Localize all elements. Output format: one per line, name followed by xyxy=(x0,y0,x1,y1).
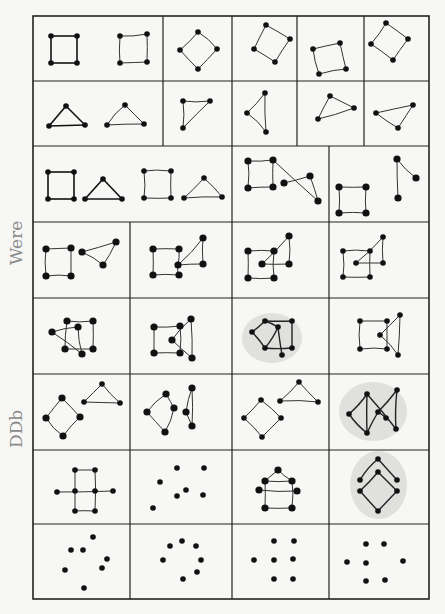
node-dot xyxy=(296,379,302,385)
node-dot xyxy=(384,318,390,324)
edge-line xyxy=(202,238,203,264)
node-dot xyxy=(375,409,381,415)
node-dot xyxy=(258,260,265,267)
edge-line xyxy=(248,278,274,279)
node-dot xyxy=(63,103,69,109)
edge-line xyxy=(247,93,265,113)
node-dot xyxy=(315,116,321,122)
edge-line xyxy=(178,264,203,265)
node-dot xyxy=(74,323,81,330)
edge-line xyxy=(397,159,416,178)
edge-line xyxy=(144,170,171,171)
node-dot xyxy=(290,556,296,562)
node-dot xyxy=(269,156,276,163)
node-dot xyxy=(100,176,106,182)
node-dot xyxy=(82,122,88,128)
edge-line xyxy=(49,106,66,126)
node-dot xyxy=(104,556,110,562)
node-dot xyxy=(280,179,287,186)
node-dot xyxy=(180,98,186,104)
node-dot xyxy=(174,465,180,471)
edge-line xyxy=(289,236,290,264)
edge-line xyxy=(371,44,393,60)
edge-line xyxy=(292,481,293,508)
node-dot xyxy=(143,408,150,415)
edge-line xyxy=(102,384,120,403)
node-dot xyxy=(183,487,189,493)
node-dot xyxy=(168,168,174,174)
node-dot xyxy=(188,384,195,391)
margin-note-2: DDb xyxy=(6,410,26,448)
edge-line xyxy=(266,25,290,39)
edge-line xyxy=(244,400,261,418)
node-dot xyxy=(277,398,283,404)
edge-line xyxy=(154,326,180,327)
drawing-grid xyxy=(0,0,445,614)
node-dot xyxy=(42,245,49,252)
node-dot xyxy=(42,272,49,279)
node-dot xyxy=(397,312,403,318)
node-dot xyxy=(67,272,74,279)
edge-line xyxy=(244,418,262,437)
node-dot xyxy=(193,543,199,549)
node-dot xyxy=(278,415,284,421)
edge-line xyxy=(184,197,222,198)
node-dot xyxy=(110,488,116,494)
node-dot xyxy=(99,565,105,571)
node-dot xyxy=(357,346,363,352)
node-dot xyxy=(262,90,268,96)
node-dot xyxy=(380,260,386,266)
node-dot xyxy=(244,247,251,254)
node-dot xyxy=(353,260,359,266)
node-dot xyxy=(244,184,251,191)
node-dot xyxy=(89,317,96,324)
node-dot xyxy=(346,411,352,417)
node-dot xyxy=(119,196,125,202)
node-dot xyxy=(367,274,373,280)
node-dot xyxy=(104,122,110,128)
node-dot xyxy=(89,345,96,352)
node-dot xyxy=(160,557,166,563)
edge-line xyxy=(376,113,398,128)
node-dot xyxy=(375,508,381,514)
node-dot xyxy=(343,66,349,72)
node-dot xyxy=(251,46,257,52)
node-dot xyxy=(78,248,85,255)
node-dot xyxy=(363,541,369,547)
node-dot xyxy=(285,260,292,267)
edge-line xyxy=(319,69,346,74)
node-dot xyxy=(275,324,281,330)
edge-line xyxy=(265,481,292,482)
edge-line xyxy=(46,248,71,249)
node-dot xyxy=(400,558,406,564)
node-dot xyxy=(373,110,379,116)
edge-line xyxy=(192,388,193,426)
node-dot xyxy=(144,31,150,37)
node-dot xyxy=(241,415,247,421)
node-dot xyxy=(177,47,183,53)
edge-line xyxy=(84,384,102,402)
node-dot xyxy=(249,329,255,335)
node-dot xyxy=(285,232,292,239)
node-dot xyxy=(394,488,400,494)
edge-line xyxy=(318,108,354,119)
edge-line xyxy=(262,418,281,437)
node-dot xyxy=(62,567,68,573)
node-dot xyxy=(72,467,78,473)
node-dot xyxy=(315,399,321,405)
node-dot xyxy=(335,183,342,190)
edge-line xyxy=(147,412,165,432)
node-dot xyxy=(61,345,68,352)
edge-line xyxy=(45,249,46,276)
edge-line xyxy=(49,125,85,126)
node-dot xyxy=(82,196,88,202)
node-dot xyxy=(327,93,333,99)
node-dot xyxy=(182,408,189,415)
node-dot xyxy=(259,434,265,440)
node-dot xyxy=(46,123,52,129)
node-dot xyxy=(271,557,277,563)
edge-line xyxy=(280,382,299,401)
edge-line xyxy=(380,315,400,335)
node-dot xyxy=(150,323,157,330)
node-dot xyxy=(335,209,342,216)
